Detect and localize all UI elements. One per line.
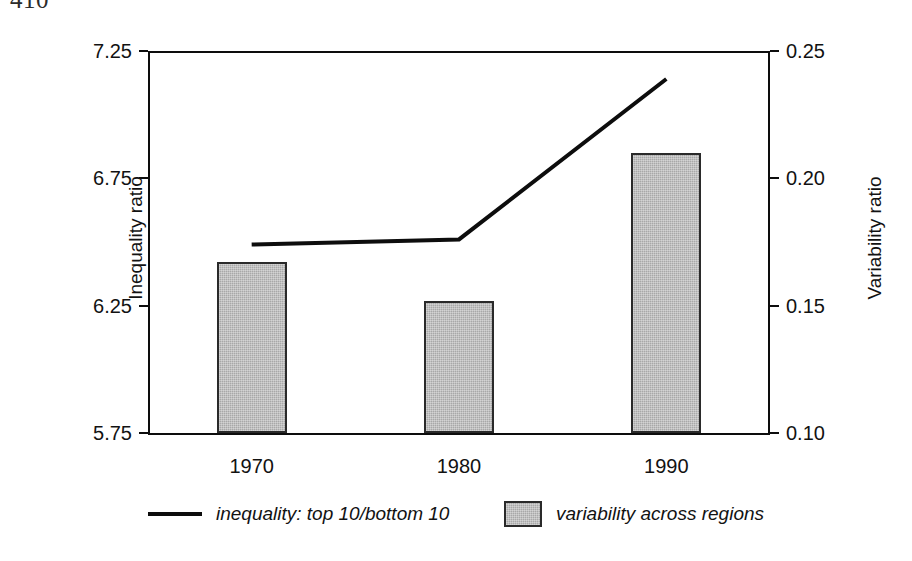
inequality-line-path [252,79,667,245]
chart-legend: inequality: top 10/bottom 10 variability… [148,497,788,531]
right-tick-label: 0.20 [786,168,825,188]
line-series [148,51,770,435]
x-tick-label: 1970 [229,455,274,478]
x-tick-label: 1990 [644,455,689,478]
left-tick-label: 5.75 [93,423,132,443]
left-tick-label: 7.25 [93,41,132,61]
right-tick-mark [770,50,779,52]
legend-bar-swatch-icon [504,501,542,527]
right-tick-label: 0.25 [786,41,825,61]
left-tick-mark [139,50,148,52]
right-tick-label: 0.10 [786,423,825,443]
left-tick-mark [139,432,148,434]
legend-line-swatch-icon [148,512,202,516]
right-axis-title: Variability ratio [864,138,886,338]
legend-item-variability: variability across regions [504,497,764,531]
right-tick-mark [770,177,779,179]
legend-item-label: inequality: top 10/bottom 10 [216,503,449,525]
right-tick-mark [770,305,779,307]
x-tick-label: 1980 [437,455,482,478]
chart-figure: 5.756.256.757.25 0.100.150.200.25 197019… [0,0,912,561]
legend-item-label: variability across regions [556,503,764,525]
right-tick-mark [770,432,779,434]
plot-area: 5.756.256.757.25 0.100.150.200.25 197019… [148,51,770,433]
left-axis-title: Inequality ratio [125,138,147,338]
legend-item-inequality: inequality: top 10/bottom 10 [148,497,449,531]
right-tick-label: 0.15 [786,296,825,316]
